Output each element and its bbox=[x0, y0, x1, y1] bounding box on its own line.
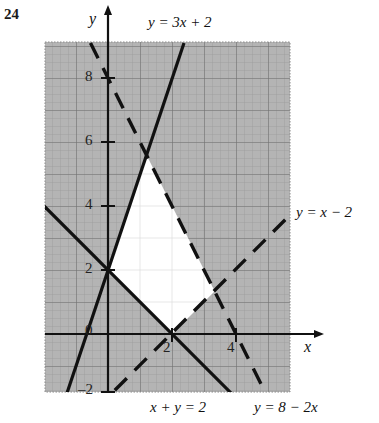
y-tick-label-6: 6 bbox=[85, 132, 93, 149]
y-tick-label-neg2: –2 bbox=[78, 381, 93, 398]
y-tick-label-0: 0 bbox=[85, 322, 93, 339]
x-axis-label: x bbox=[304, 338, 311, 356]
line-label-y-x-minus-2: y = x − 2 bbox=[296, 204, 352, 221]
y-tick-label-4: 4 bbox=[85, 196, 93, 213]
line-label-x-plus-y-2: x + y = 2 bbox=[150, 399, 206, 416]
y-axis-label: y bbox=[89, 10, 96, 28]
y-tick-label-8: 8 bbox=[85, 68, 93, 85]
x-tick-label-4: 4 bbox=[227, 339, 235, 356]
x-tick-label-2: 2 bbox=[163, 339, 171, 356]
line-label-y-8-minus-2x: y = 8 − 2x bbox=[254, 399, 318, 416]
y-tick-label-2: 2 bbox=[85, 260, 93, 277]
line-label-y-3x-plus-2: y = 3x + 2 bbox=[148, 14, 212, 31]
graph-figure: 24 bbox=[0, 0, 379, 423]
